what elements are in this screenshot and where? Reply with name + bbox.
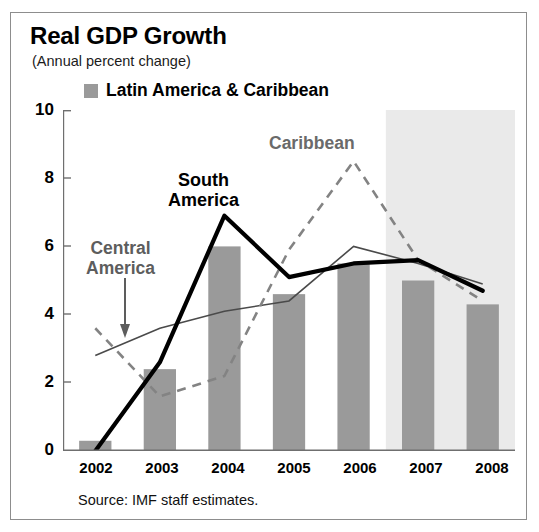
source-note: Source: IMF staff estimates. [78, 492, 258, 508]
y-axis-tick-8: 8 [18, 168, 54, 188]
y-axis-tick-6: 6 [18, 236, 54, 256]
y-axis-tick-4: 4 [18, 304, 54, 324]
x-axis-tick-2004: 2004 [193, 459, 263, 476]
bar-2005 [273, 294, 305, 451]
annotation-south-america-line2: America [168, 190, 239, 210]
bar-2004 [208, 246, 240, 451]
annotation-south-america: South America [168, 170, 239, 210]
x-axis-tick-2005: 2005 [259, 459, 329, 476]
y-axis-tick-10: 10 [18, 100, 54, 120]
y-axis-tick-0: 0 [18, 440, 54, 460]
x-axis-tick-2006: 2006 [325, 459, 395, 476]
x-axis-tick-2007: 2007 [391, 459, 461, 476]
annotation-central-america-line1: Central [86, 239, 155, 259]
bar-2006 [337, 263, 369, 451]
legend-label: Latin America & Caribbean [106, 80, 329, 101]
page-title: Real GDP Growth [30, 22, 227, 50]
chart-figure: Real GDP Growth (Annual percent change) … [0, 0, 539, 532]
annotation-south-america-line1: South [168, 170, 239, 190]
annotation-central-america-line2: America [86, 259, 155, 279]
x-axis-tick-2002: 2002 [61, 459, 131, 476]
legend-swatch-icon [84, 84, 98, 98]
chart-subtitle: (Annual percent change) [32, 53, 191, 69]
chart-legend: Latin America & Caribbean [84, 80, 329, 101]
bar-2003 [144, 369, 176, 451]
annotation-caribbean: Caribbean [269, 134, 355, 154]
central-america-arrow-icon [120, 278, 130, 338]
y-axis-tick-2: 2 [18, 372, 54, 392]
x-axis-tick-2003: 2003 [127, 459, 197, 476]
plot-svg [63, 110, 515, 451]
x-axis-tick-2008: 2008 [457, 459, 527, 476]
bar-2007 [402, 281, 434, 452]
plot-area [63, 110, 515, 451]
annotation-central-america: Central America [86, 239, 155, 278]
bar-2008 [467, 304, 499, 451]
